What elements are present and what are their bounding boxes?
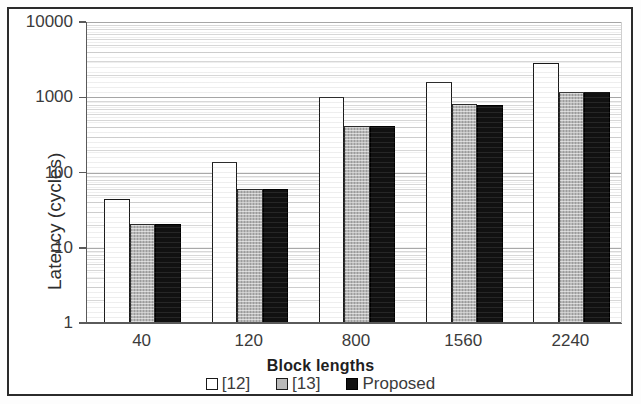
- gridline-minor: [87, 25, 622, 26]
- gridline-minor: [87, 39, 622, 40]
- x-axis-tick-label: 40: [102, 332, 182, 349]
- x-axis-tick-label: 800: [316, 332, 396, 349]
- y-axis-tick-label: 100: [0, 164, 73, 181]
- legend-item: [12]: [206, 374, 250, 394]
- chart-legend: [12][13]Proposed: [0, 374, 641, 394]
- legend-item: Proposed: [346, 374, 435, 394]
- gridline-major: [87, 22, 622, 23]
- x-axis-tick-label: 2240: [530, 332, 610, 349]
- bar: [263, 189, 289, 323]
- bar: [155, 224, 181, 324]
- bar: [319, 97, 345, 323]
- bar: [237, 189, 263, 323]
- plot-area: [86, 22, 622, 323]
- y-axis-tick: [79, 247, 86, 249]
- figure-container: Latency (cycles) 100001000100101 4012080…: [0, 0, 641, 404]
- bar: [370, 126, 396, 323]
- bar: [559, 92, 585, 323]
- legend-swatch-white-square: [206, 378, 218, 390]
- legend-label: [13]: [292, 374, 320, 394]
- bar: [584, 92, 610, 323]
- x-axis-line: [86, 322, 622, 324]
- legend-swatch-black-square: [346, 378, 358, 390]
- bar: [477, 105, 503, 324]
- legend-label: Proposed: [362, 374, 435, 394]
- x-axis-tick-label: 120: [209, 332, 289, 349]
- bar: [452, 104, 478, 323]
- gridline-minor: [87, 52, 622, 53]
- bar: [533, 63, 559, 323]
- y-axis-tick-label: 10: [0, 239, 73, 256]
- legend-label: [12]: [222, 374, 250, 394]
- bar: [212, 162, 238, 324]
- gridline-minor: [87, 34, 622, 35]
- bar: [130, 224, 156, 324]
- legend-item: [13]: [276, 374, 320, 394]
- y-axis-tick: [79, 172, 86, 174]
- y-axis-tick-label: 1: [0, 314, 73, 331]
- x-axis-tick-label: 1560: [423, 332, 503, 349]
- x-axis-title: Block lengths: [0, 357, 641, 375]
- legend-swatch-gray-square: [276, 378, 288, 390]
- bar: [104, 199, 130, 323]
- bar: [344, 126, 370, 323]
- bar: [426, 82, 452, 324]
- y-axis-tick: [79, 322, 86, 324]
- plot-right-edge: [621, 22, 622, 323]
- y-axis-tick-label: 1000: [0, 88, 73, 105]
- y-axis-tick: [79, 97, 86, 99]
- y-axis-tick-label: 10000: [0, 13, 73, 30]
- gridline-minor: [87, 29, 622, 30]
- gridline-minor: [87, 45, 622, 46]
- y-axis-tick: [79, 21, 86, 23]
